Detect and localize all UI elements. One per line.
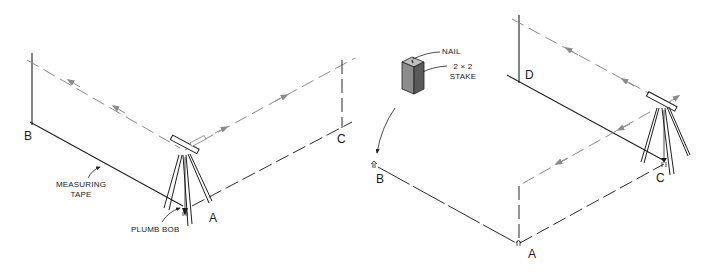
- plumb-bob-leader: [162, 208, 180, 222]
- stake-icon: [402, 57, 424, 94]
- point-label-b-left: B: [24, 130, 32, 142]
- point-label-c-right: C: [656, 172, 665, 184]
- right-panel: [371, 15, 690, 246]
- plumb-bob-label: PLUMB BOB: [131, 226, 179, 234]
- point-label-c-left: C: [337, 133, 346, 145]
- sight-line-to-a: [518, 112, 650, 186]
- sight-line-to-d: [512, 19, 652, 95]
- arrow-icon: [215, 128, 225, 133]
- point-label-d-right: D: [525, 69, 534, 81]
- arrow-icon: [568, 49, 578, 55]
- transit-tripod-icon: [641, 92, 690, 175]
- point-marker-b-icon: [371, 161, 377, 168]
- surveying-layout-diagram: B C A MEASURING TAPE PLUMB BOB NAIL 2 × …: [0, 0, 708, 274]
- nail-label: NAIL: [442, 48, 461, 56]
- arrow-icon: [70, 81, 80, 87]
- point-label-b-right: B: [376, 173, 384, 185]
- nail-leader: [413, 52, 440, 59]
- arrow-icon: [558, 158, 568, 163]
- stake-leader: [423, 66, 447, 72]
- arrow-icon: [620, 124, 630, 129]
- baseline-b-a: [378, 167, 518, 244]
- placement-arrow-icon: [377, 108, 395, 153]
- baseline-a-c: [192, 122, 352, 206]
- measuring-tape-label: MEASURING TAPE: [52, 181, 110, 199]
- arrow-icon: [275, 96, 285, 101]
- point-label-a-left: A: [209, 212, 217, 224]
- baseline-a-c-right: [520, 164, 664, 243]
- sight-line-to-c: [185, 58, 355, 150]
- point-marker-a-icon: [516, 240, 521, 246]
- sight-line-to-b: [27, 60, 180, 148]
- left-panel: [27, 53, 355, 226]
- arrow-icon: [624, 80, 634, 86]
- measuring-tape-leader: [88, 167, 100, 178]
- arrow-icon: [115, 107, 125, 113]
- diagram-drawing: [0, 0, 708, 274]
- stake-label: 2 × 2 STAKE: [446, 63, 480, 81]
- point-label-a-right: A: [528, 248, 536, 260]
